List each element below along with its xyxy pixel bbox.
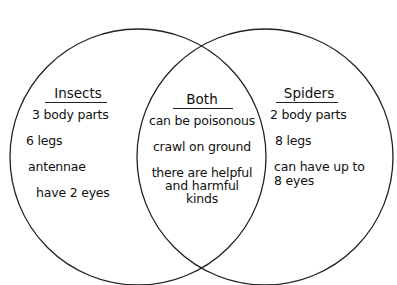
spiders-item: 8 eyes <box>274 174 314 188</box>
both-item: kinds <box>144 192 260 206</box>
spiders-title-underline <box>276 102 338 103</box>
both-item: can be poisonous <box>144 114 260 128</box>
insects-item: antennae <box>28 160 86 174</box>
spiders-item: 2 body parts <box>270 108 347 122</box>
insects-item: 3 body parts <box>32 108 109 122</box>
insects-title: Insects <box>48 86 108 101</box>
spiders-item: 8 legs <box>275 134 311 148</box>
insects-item: have 2 eyes <box>36 186 110 200</box>
spiders-title: Spiders <box>279 86 339 101</box>
insects-item: 6 legs <box>26 134 62 148</box>
both-item: crawl on ground <box>144 140 260 154</box>
spiders-circle <box>137 29 393 285</box>
insects-title-underline <box>45 102 107 103</box>
insects-circle <box>10 29 266 285</box>
both-title-underline <box>173 108 233 109</box>
both-title: Both <box>172 92 232 107</box>
spiders-item: can have up to <box>274 160 365 174</box>
